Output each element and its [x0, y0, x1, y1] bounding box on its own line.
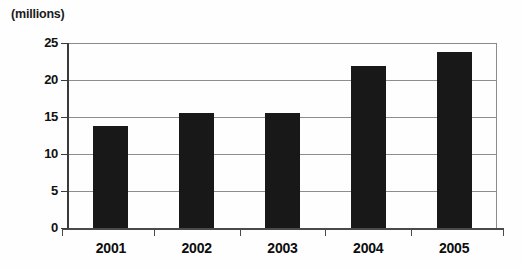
y-axis-tick-label: 5	[2, 183, 58, 198]
y-axis-tick-label: 20	[2, 72, 58, 87]
bar	[351, 66, 386, 228]
y-axis-tick-mark	[61, 154, 68, 155]
x-axis-end-tick	[503, 229, 504, 236]
plot-area	[68, 43, 497, 228]
y-axis-tick-mark	[61, 43, 68, 44]
x-axis-tick-mark	[411, 229, 412, 236]
bar	[93, 126, 128, 228]
x-axis-category-label: 2003	[240, 240, 326, 256]
x-axis-category-label: 2001	[68, 240, 154, 256]
bar	[265, 113, 300, 228]
x-axis-category-label: 2002	[154, 240, 240, 256]
y-axis-tick-label: 15	[2, 109, 58, 124]
y-axis: 0510152025	[0, 0, 58, 270]
bar-chart-figure: (millions) 0510152025 200120022003200420…	[0, 0, 521, 270]
x-axis-tick-mark	[154, 229, 155, 236]
bar	[179, 113, 214, 228]
x-axis-tick-mark	[240, 229, 241, 236]
y-axis-tick-mark	[61, 80, 68, 81]
y-axis-line	[67, 43, 69, 229]
bar	[437, 52, 472, 228]
x-axis-category-label: 2005	[411, 240, 497, 256]
y-axis-tick-label: 25	[2, 35, 58, 50]
y-axis-tick-mark	[61, 191, 68, 192]
y-axis-tick-mark	[61, 117, 68, 118]
x-axis-category-label: 2004	[325, 240, 411, 256]
x-axis-line	[62, 228, 504, 230]
x-axis-start-tick	[62, 229, 63, 236]
y-axis-tick-label: 10	[2, 146, 58, 161]
gridline	[68, 80, 497, 81]
y-axis-tick-label: 0	[2, 220, 58, 235]
x-axis-tick-mark	[325, 229, 326, 236]
